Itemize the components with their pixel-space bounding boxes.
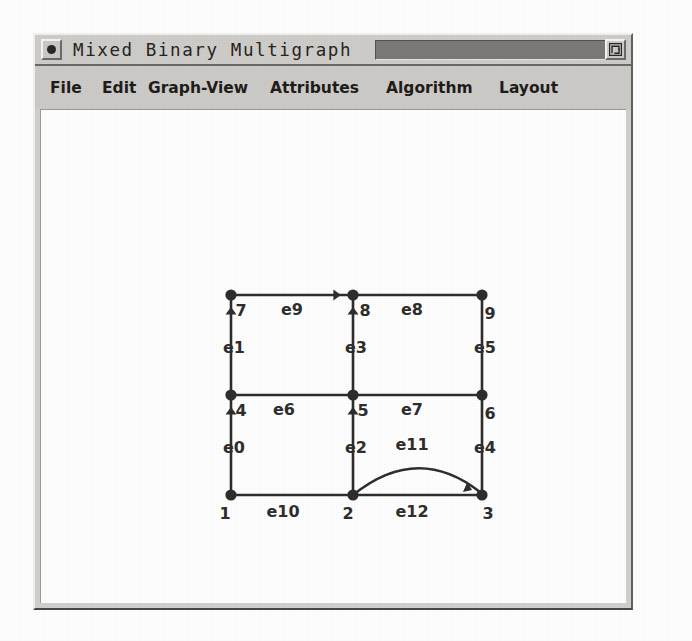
resize-corner-icon[interactable] <box>605 39 626 60</box>
edge-label-e12: e12 <box>395 502 428 521</box>
edge-label-e6: e6 <box>273 400 295 419</box>
node-7 <box>225 289 236 300</box>
node-9 <box>476 289 487 300</box>
node-1 <box>225 489 236 500</box>
node-6 <box>476 389 487 400</box>
graph-canvas[interactable]: e0e1e2e3e4e5e6e7e8e9e10e11e12 123456789 <box>40 109 626 603</box>
arrowhead-e9 <box>333 290 341 301</box>
window-title: Mixed Binary Multigraph <box>73 40 352 60</box>
edge-label-e9: e9 <box>281 300 303 319</box>
node-label-6: 6 <box>484 404 495 423</box>
node-8 <box>347 289 358 300</box>
edge-label-e1: e1 <box>223 338 245 357</box>
arrowhead-e3 <box>348 307 359 315</box>
menu-edit[interactable]: Edit <box>99 77 139 99</box>
edge-label-e2: e2 <box>345 438 367 457</box>
application-window: Mixed Binary Multigraph File Edit Graph-… <box>33 33 633 610</box>
graph-drawing: e0e1e2e3e4e5e6e7e8e9e10e11e12 123456789 <box>41 110 626 603</box>
node-label-8: 8 <box>359 301 370 320</box>
node-label-4: 4 <box>235 401 246 420</box>
node-5 <box>347 389 358 400</box>
window-titlebar[interactable]: Mixed Binary Multigraph <box>35 35 631 66</box>
node-label-5: 5 <box>357 401 368 420</box>
node-2 <box>347 489 358 500</box>
edge-label-e5: e5 <box>474 338 496 357</box>
node-label-2: 2 <box>342 504 353 523</box>
resize-corner-glyph <box>609 43 622 56</box>
edge-label-e8: e8 <box>401 300 423 319</box>
node-4 <box>225 389 236 400</box>
node-label-1: 1 <box>219 504 230 523</box>
node-3 <box>476 489 487 500</box>
edge-e11 <box>353 468 480 495</box>
edge-label-e3: e3 <box>345 338 367 357</box>
edge-label-e4: e4 <box>474 438 496 457</box>
edge-label-e7: e7 <box>401 400 423 419</box>
node-label-3: 3 <box>482 504 493 523</box>
screenshot-root: Mixed Binary Multigraph File Edit Graph-… <box>0 0 692 641</box>
titlebar-recessed-band <box>375 40 624 60</box>
node-label-9: 9 <box>484 304 495 323</box>
node-label-layer: 123456789 <box>219 301 495 523</box>
menubar: File Edit Graph-View Attributes Algorith… <box>35 66 631 109</box>
menu-file[interactable]: File <box>47 77 85 99</box>
menu-attributes[interactable]: Attributes <box>267 77 362 99</box>
menu-layout[interactable]: Layout <box>496 77 561 99</box>
window-menu-dot-icon[interactable] <box>41 39 62 60</box>
edge-label-e0: e0 <box>223 438 245 457</box>
edge-label-e10: e10 <box>266 502 299 521</box>
menu-algorithm[interactable]: Algorithm <box>383 77 476 99</box>
node-label-7: 7 <box>235 301 246 320</box>
menu-graph-view[interactable]: Graph-View <box>145 77 251 99</box>
edge-label-e11: e11 <box>395 435 428 454</box>
